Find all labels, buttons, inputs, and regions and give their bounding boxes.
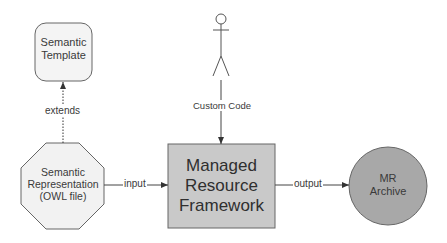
- output-edge-label: output: [293, 178, 323, 189]
- semantic-template-label: Semantic Template: [35, 36, 92, 61]
- label-line: Template: [35, 49, 92, 62]
- actor-stick-figure-icon: [213, 14, 229, 76]
- label-line: Representation: [18, 178, 108, 190]
- extends-edge-label: extends: [44, 105, 81, 116]
- mr-archive-label: MR Archive: [349, 172, 427, 197]
- label-line: Managed: [168, 156, 275, 176]
- semantic-representation-label: Semantic Representation (OWL file): [18, 166, 108, 202]
- label-line: Semantic: [35, 36, 92, 49]
- label-line: Framework: [168, 196, 275, 216]
- label-line: MR: [349, 172, 427, 185]
- label-line: Semantic: [18, 166, 108, 178]
- custom-code-edge-label: Custom Code: [192, 100, 252, 111]
- managed-resource-framework-label: Managed Resource Framework: [168, 156, 275, 216]
- label-line: Resource: [168, 176, 275, 196]
- label-line: (OWL file): [18, 190, 108, 202]
- label-line: Archive: [349, 185, 427, 198]
- input-edge-label: input: [123, 178, 147, 189]
